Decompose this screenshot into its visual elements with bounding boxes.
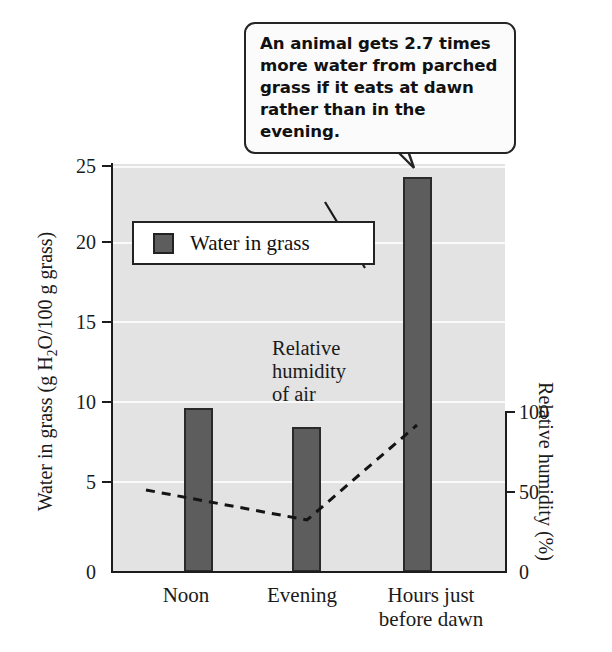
tick-right-100: [506, 411, 515, 413]
tick-left-5: [102, 481, 112, 483]
y-axis-right-title: Relative humidity (%): [534, 327, 557, 617]
xlabel-evening-line1: Evening: [244, 583, 360, 607]
tick-left-15: [102, 321, 112, 323]
tick-right-50: [506, 491, 515, 493]
ticklabel-left-5: 5: [86, 472, 96, 492]
annotation-line-1: Relative: [272, 337, 392, 360]
annotation-line-3: of air: [272, 383, 392, 406]
legend-swatch-water-in-grass: [153, 233, 174, 254]
tick-left-20: [102, 241, 112, 243]
ticklabel-left-0: 0: [86, 562, 96, 582]
y-axis-left-line: [111, 163, 113, 573]
callout-box: An animal gets 2.7 times more water from…: [244, 22, 516, 154]
annotation-relative-humidity-of-air: Relative humidity of air: [272, 337, 392, 406]
tick-left-10: [102, 401, 112, 403]
callout-text: An animal gets 2.7 times more water from…: [260, 34, 497, 141]
xlabel-dawn-line2: before dawn: [358, 607, 504, 631]
legend-label-water-in-grass: Water in grass: [190, 231, 310, 256]
figure-chart: An animal gets 2.7 times more water from…: [0, 0, 612, 652]
y-axis-left-title-subscript: 2: [45, 349, 60, 356]
ticklabel-left-20: 20: [76, 232, 96, 252]
x-axis-line: [111, 571, 507, 573]
xlabel-dawn-line1: Hours just: [358, 583, 504, 607]
annotation-line-2: humidity: [272, 360, 392, 383]
xlabel-noon-line1: Noon: [138, 583, 234, 607]
tick-left-25: [102, 165, 112, 167]
ticklabel-right-0: 0: [519, 562, 529, 582]
legend: Water in grass: [132, 221, 375, 265]
y-axis-left-title-part1: Water in grass (g H: [34, 356, 56, 511]
ticklabel-left-15: 15: [76, 312, 96, 332]
ticklabel-left-25: 25: [76, 156, 96, 176]
y-axis-left-title: Water in grass (g H2O/100 g grass): [34, 192, 61, 552]
xlabel-evening: Evening: [244, 583, 360, 607]
ticklabel-left-10: 10: [76, 392, 96, 412]
xlabel-hours-before-dawn: Hours just before dawn: [358, 583, 504, 632]
y-axis-left-title-part2: O/100 g grass): [34, 232, 56, 350]
xlabel-noon: Noon: [138, 583, 234, 607]
